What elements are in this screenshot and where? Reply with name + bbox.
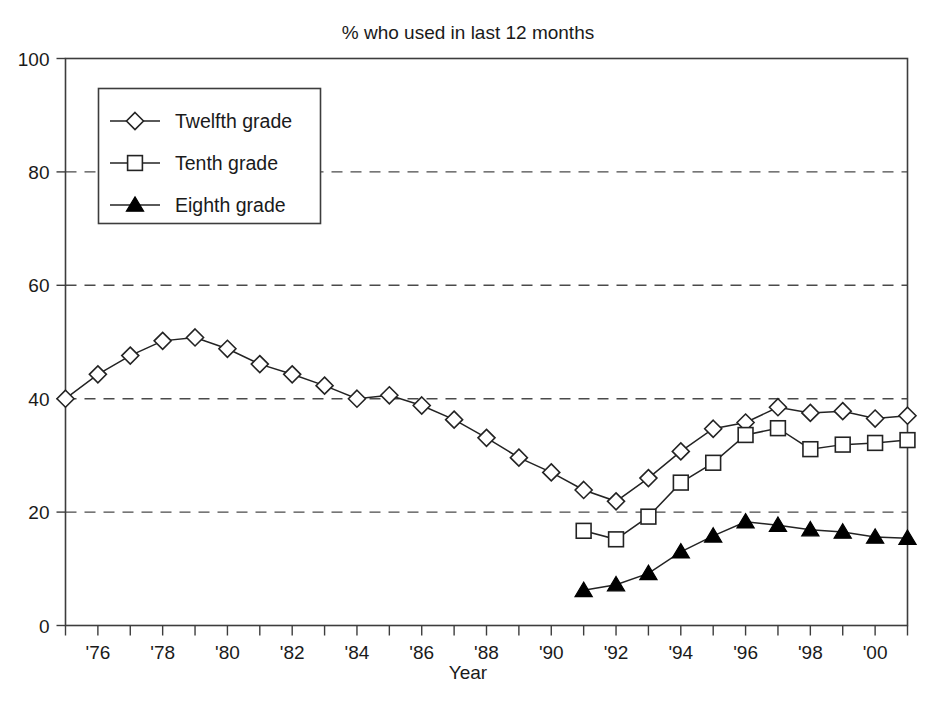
data-point-square — [641, 509, 656, 524]
y-axis-tick-label: 20 — [28, 502, 49, 523]
x-axis-tick-label: '90 — [539, 642, 564, 663]
data-point-square — [609, 532, 624, 547]
x-axis-tick-label: '84 — [345, 642, 370, 663]
y-axis-tick-label: 100 — [18, 49, 50, 70]
x-axis-tick-label: '78 — [150, 642, 175, 663]
x-axis-tick-label: '76 — [86, 642, 111, 663]
y-axis-tick-label: 60 — [28, 275, 49, 296]
data-point-square — [706, 455, 721, 470]
y-axis-tick-label: 80 — [28, 162, 49, 183]
x-axis-tick-label: '94 — [668, 642, 693, 663]
y-axis-tick-label: 0 — [39, 616, 50, 637]
x-axis-label: Year — [449, 662, 488, 683]
data-point-square — [576, 523, 591, 538]
legend-item-label: Tenth grade — [175, 152, 278, 174]
data-point-square — [128, 156, 143, 171]
data-point-square — [673, 475, 688, 490]
y-axis-tick-label: 40 — [28, 389, 49, 410]
data-point-square — [738, 428, 753, 443]
x-axis-tick-label: '82 — [280, 642, 305, 663]
x-axis-tick-label: '88 — [474, 642, 499, 663]
data-point-square — [771, 421, 786, 436]
data-point-square — [900, 433, 915, 448]
data-point-square — [803, 442, 818, 457]
data-point-square — [868, 436, 883, 451]
chart-container: % who used in last 12 months 02040608010… — [0, 0, 937, 706]
data-point-square — [835, 437, 850, 452]
line-chart: % who used in last 12 months 02040608010… — [0, 0, 937, 706]
x-axis-tick-label: '96 — [733, 642, 758, 663]
x-axis-tick-label: '86 — [409, 642, 434, 663]
legend-item-label: Twelfth grade — [175, 110, 292, 132]
legend-item-label: Eighth grade — [175, 194, 286, 216]
chart-title: % who used in last 12 months — [342, 22, 594, 43]
x-axis-tick-label: '92 — [604, 642, 629, 663]
chart-legend: Twelfth gradeTenth gradeEighth grade — [99, 89, 321, 224]
x-axis-tick-label: '98 — [798, 642, 823, 663]
x-axis-tick-label: '00 — [863, 642, 888, 663]
x-axis-tick-label: '80 — [215, 642, 240, 663]
